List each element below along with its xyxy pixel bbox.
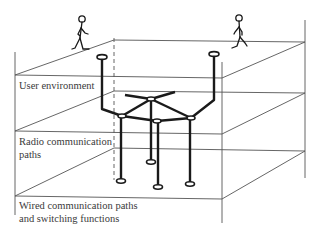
label-wired-line2: and switching functions xyxy=(19,213,119,225)
label-wired-line1: Wired communication paths xyxy=(19,200,138,212)
node-middle-icon xyxy=(153,119,161,123)
hub-node-icon xyxy=(147,97,155,101)
terminal-1-icon xyxy=(117,179,126,183)
antenna-left-icon xyxy=(97,55,107,60)
node-right-icon xyxy=(187,116,195,120)
label-radio-line1: Radio communication xyxy=(19,136,112,148)
label-user-environment: User environment xyxy=(19,80,95,92)
walking-person-left-icon xyxy=(72,16,89,49)
terminal-4-icon xyxy=(186,182,195,186)
walking-person-right-icon xyxy=(232,15,247,48)
label-radio-line2: paths xyxy=(19,149,41,161)
node-left-icon xyxy=(118,114,126,118)
antenna-right-icon xyxy=(209,52,219,57)
terminal-2-icon xyxy=(147,160,156,164)
terminal-3-icon xyxy=(154,185,163,189)
